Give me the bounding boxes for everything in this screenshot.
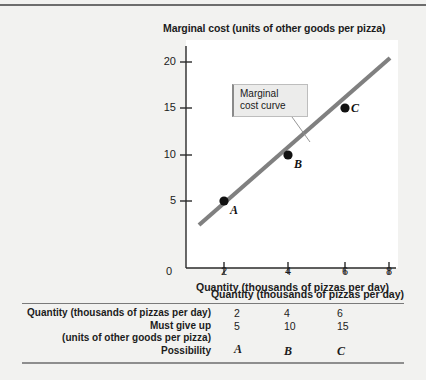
table-cell-give-up-2: 10: [284, 320, 310, 332]
table-rule-bottom: [22, 362, 404, 364]
x-tick-8: 8: [379, 265, 399, 277]
y-tick-5: 5: [150, 194, 176, 206]
table-cell-possibility-b: B: [284, 344, 310, 359]
x-tick-6: 6: [335, 265, 355, 277]
marginal-cost-curve-callout: Marginal cost curve: [232, 84, 308, 117]
data-point-label-a: A: [230, 203, 238, 218]
callout-line-2: cost curve: [240, 100, 302, 112]
y-tick-20: 20: [150, 55, 176, 67]
x-tick-2: 2: [214, 265, 234, 277]
table-cell-possibility-a: A: [234, 342, 260, 357]
table-cell-quantity-2: 4: [284, 307, 310, 319]
callout-line-1: Marginal: [240, 88, 302, 100]
table-cell-give-up-3: 15: [337, 320, 363, 332]
table-header-quantity: Quantity (thousands of pizzas per day): [211, 288, 404, 300]
data-point-label-c: C: [351, 101, 359, 116]
table-row-label-must-give-up: Must give up: [150, 320, 211, 331]
table-cell-possibility-c: C: [337, 344, 363, 359]
y-tick-10: 10: [150, 148, 176, 160]
table-cell-quantity-1: 2: [234, 307, 260, 319]
chart-canvas: [0, 0, 426, 300]
x-tick-4: 4: [278, 265, 298, 277]
table-row-label-possibility: Possibility: [161, 345, 211, 356]
y-tick-15: 15: [150, 101, 176, 113]
table-cell-quantity-3: 6: [337, 307, 363, 319]
table-row-label-quantity: Quantity (thousands of pizzas per day): [27, 307, 211, 318]
table-cell-give-up-1: 5: [234, 320, 260, 332]
table-rule-top: [22, 303, 404, 304]
axis-origin-label: 0: [166, 265, 172, 277]
table-row-label-must-give-up-units: (units of other goods per pizza): [62, 332, 211, 343]
economics-figure: Marginal cost (units of other goods per …: [0, 0, 426, 380]
data-point-label-b: B: [294, 157, 302, 172]
